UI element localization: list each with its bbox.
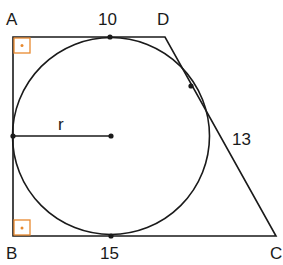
vertex-label-B: B [6,245,17,262]
length-label-top: 10 [98,11,117,28]
vertex-label-A: A [6,11,17,28]
tangent-point-left [10,133,15,138]
tangent-point-bottom [108,233,113,238]
diagram-canvas: A D B C 10 15 13 r [0,0,283,265]
length-label-slant: 13 [232,131,251,148]
tangent-point-slant [188,83,193,88]
right-angle-marker-B [14,220,30,235]
radius-label: r [58,116,64,133]
vertex-label-D: D [157,11,169,28]
length-label-bottom: 15 [100,245,119,262]
vertex-label-C: C [270,245,282,262]
right-angle-marker-A [14,38,30,53]
circle-center-point [108,133,113,138]
tangent-point-top [107,34,112,39]
